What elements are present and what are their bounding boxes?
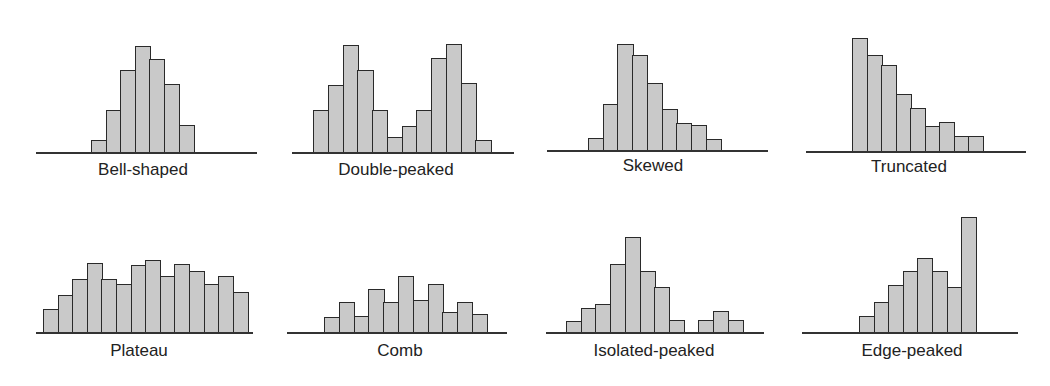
x-axis-baseline (802, 332, 1018, 334)
x-axis-baseline (287, 332, 507, 334)
histogram-label: Edge-peaked (861, 341, 962, 361)
histogram-bar (233, 292, 249, 333)
x-axis-baseline (36, 332, 253, 334)
x-axis-baseline (36, 152, 257, 154)
x-axis-baseline (806, 151, 1026, 153)
x-axis-baseline (547, 150, 768, 152)
histogram-bar (179, 125, 195, 153)
histogram-label: Double-peaked (338, 160, 453, 180)
histogram-label: Comb (377, 341, 422, 361)
histogram-bar (472, 314, 488, 333)
x-axis-baseline (546, 332, 764, 334)
histogram-label: Truncated (871, 157, 947, 177)
histogram-bar (968, 136, 984, 152)
histogram-label: Bell-shaped (98, 160, 188, 180)
histogram-label: Plateau (110, 341, 168, 361)
x-axis-baseline (292, 152, 514, 154)
histogram-label: Skewed (623, 156, 683, 176)
histogram-bar (961, 217, 977, 333)
histogram-label: Isolated-peaked (594, 341, 715, 361)
